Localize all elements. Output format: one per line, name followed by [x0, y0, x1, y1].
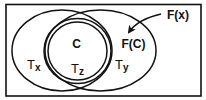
mapping-arrow: [129, 14, 161, 32]
label-fc: F(C): [122, 37, 146, 51]
label-c: C: [72, 37, 81, 51]
label-ty: Ty: [115, 57, 129, 73]
label-tx: Tx: [27, 57, 41, 73]
set-diagram: C Tz Tx Ty F(C) F(x): [0, 0, 206, 100]
label-tz: Tz: [71, 61, 84, 77]
label-fx: F(x): [167, 8, 189, 22]
